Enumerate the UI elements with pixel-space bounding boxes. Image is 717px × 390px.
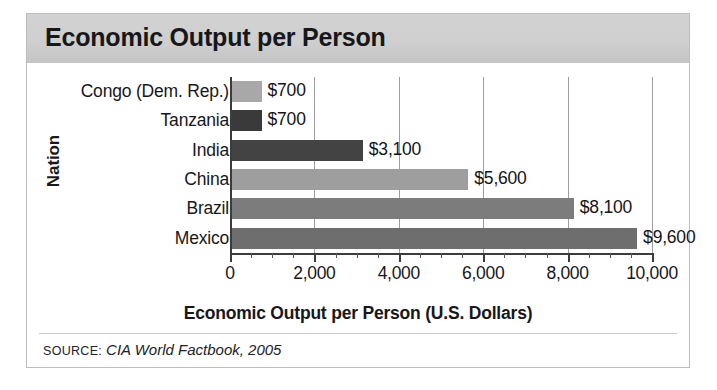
- bar-row: $5,600: [232, 165, 654, 194]
- bar: [232, 81, 262, 102]
- bar: [232, 169, 468, 190]
- bar-value-label: $9,600: [643, 227, 695, 248]
- x-tick-major: [399, 253, 401, 262]
- x-tick-minor: [610, 253, 611, 258]
- x-tick-minor: [378, 253, 379, 258]
- plot-region: Nation Congo (Dem. Rep.)TanzaniaIndiaChi…: [27, 63, 689, 319]
- bar-value-label: $3,100: [369, 139, 421, 160]
- x-tick-minor: [441, 253, 442, 258]
- x-tick-label: 2,000: [293, 263, 335, 284]
- category-label: Brazil: [186, 194, 229, 223]
- x-tick-minor: [525, 253, 526, 258]
- bar-row: $700: [232, 77, 654, 106]
- category-label: Tanzania: [161, 106, 229, 135]
- bar-row: $3,100: [232, 136, 654, 165]
- y-axis-line: [230, 77, 232, 253]
- x-tick-minor: [420, 253, 421, 258]
- source-note: SOURCE: CIA World Factbook, 2005: [43, 341, 281, 358]
- category-label-column: Congo (Dem. Rep.)TanzaniaIndiaChinaBrazi…: [47, 77, 229, 253]
- bar-row: $8,100: [232, 194, 654, 223]
- category-label: China: [184, 165, 229, 194]
- x-tick-label: 8,000: [546, 263, 588, 284]
- category-label: Congo (Dem. Rep.): [81, 77, 229, 106]
- x-axis: 02,0004,0006,0008,00010,000: [230, 253, 654, 262]
- x-tick-label: 4,000: [378, 263, 420, 284]
- source-divider: [39, 333, 677, 334]
- x-tick-minor: [631, 253, 632, 258]
- bar-value-label: $5,600: [474, 168, 526, 189]
- bar-value-label: $8,100: [580, 197, 632, 218]
- chart-title: Economic Output per Person: [45, 23, 386, 52]
- x-tick-minor: [504, 253, 505, 258]
- x-tick-minor: [336, 253, 337, 258]
- title-banner: Economic Output per Person: [27, 14, 689, 63]
- bar-row: $700: [232, 106, 654, 135]
- bar-value-label: $700: [268, 80, 306, 101]
- x-axis-title: Economic Output per Person (U.S. Dollars…: [27, 303, 689, 324]
- source-text: CIA World Factbook, 2005: [106, 341, 281, 358]
- category-label: Mexico: [175, 224, 229, 253]
- plot-area: $700$700$3,100$5,600$8,100$9,600: [230, 77, 652, 253]
- bar: [232, 110, 262, 131]
- category-label: India: [192, 136, 229, 165]
- bar: [232, 198, 574, 219]
- x-tick-minor: [462, 253, 463, 258]
- x-tick-minor: [589, 253, 590, 258]
- x-tick-minor: [293, 253, 294, 258]
- source-label: SOURCE:: [43, 344, 102, 358]
- x-tick-major: [230, 253, 232, 262]
- x-tick-minor: [272, 253, 273, 258]
- bar-row: $9,600: [232, 224, 654, 253]
- x-tick-minor: [357, 253, 358, 258]
- x-tick-label: 6,000: [462, 263, 504, 284]
- x-tick-minor: [547, 253, 548, 258]
- bar-value-label: $700: [268, 109, 306, 130]
- x-tick-minor: [251, 253, 252, 258]
- x-tick-major: [652, 253, 654, 262]
- x-tick-label: 0: [225, 263, 234, 284]
- x-tick-major: [483, 253, 485, 262]
- x-tick-major: [568, 253, 570, 262]
- x-tick-label: 10,000: [626, 263, 678, 284]
- bar: [232, 140, 363, 161]
- bar: [232, 228, 637, 249]
- x-tick-major: [314, 253, 316, 262]
- chart-figure: Economic Output per Person Nation Congo …: [26, 13, 690, 368]
